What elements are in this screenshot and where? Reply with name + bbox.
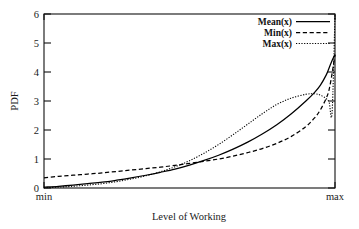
y-tick-label-4: 4: [34, 67, 40, 78]
legend-label-min: Min(x): [264, 28, 292, 39]
pdf-line-chart: 0 1 2 3 4 5 6 min max Level of Working P…: [0, 0, 359, 229]
y-tick-label-6: 6: [34, 9, 39, 20]
curve-min: [44, 55, 335, 178]
y-tick-label-2: 2: [34, 125, 39, 136]
legend-label-max: Max(x): [262, 39, 292, 50]
legend: Mean(x) Min(x) Max(x): [236, 16, 332, 50]
y-tick-label-1: 1: [34, 154, 39, 165]
y-axis-title: PDF: [9, 91, 20, 110]
x-tick-label-max: max: [326, 191, 345, 202]
y-axis-ticks: [44, 14, 51, 188]
curve-mean: [44, 55, 335, 188]
x-axis-title: Level of Working: [152, 211, 227, 222]
legend-label-mean: Mean(x): [258, 17, 292, 28]
chart-figure: 0 1 2 3 4 5 6 min max Level of Working P…: [0, 0, 359, 229]
y-tick-label-5: 5: [34, 38, 39, 49]
y-tick-label-3: 3: [34, 96, 39, 107]
x-tick-label-min: min: [36, 191, 53, 202]
